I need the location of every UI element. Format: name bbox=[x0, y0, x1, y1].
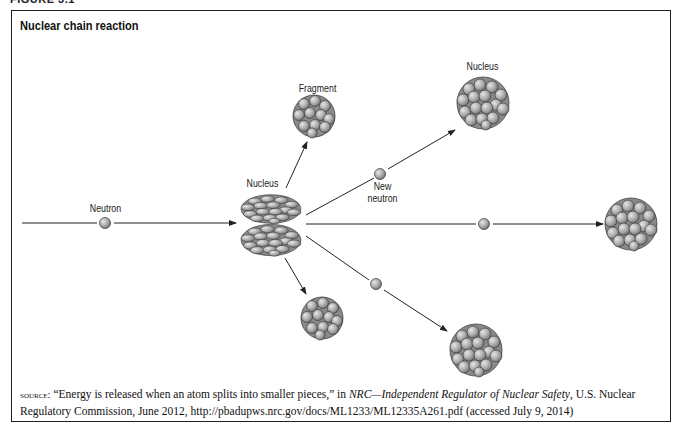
nucleus-top-right-label: Nucleus bbox=[458, 61, 506, 73]
new-neutron-label-line1: New bbox=[358, 181, 406, 193]
bottom-fragment bbox=[301, 297, 343, 340]
new-neutron-middle bbox=[479, 219, 490, 230]
neutron-label: Neutron bbox=[81, 203, 129, 215]
right-nucleus bbox=[605, 198, 657, 251]
arrow-to-bottom-fragment bbox=[285, 258, 306, 294]
lower-path-line bbox=[306, 236, 369, 280]
incoming-neutron bbox=[100, 218, 111, 229]
top-fragment bbox=[293, 95, 335, 138]
new-neutron-label: New neutron bbox=[358, 181, 406, 205]
upper-nucleus bbox=[457, 77, 509, 130]
splitting-nucleus bbox=[241, 195, 301, 257]
new-neutron-label-line2: neutron bbox=[358, 193, 406, 205]
source-publication: NRC—Independent Regulator of Nuclear Saf… bbox=[349, 388, 570, 400]
new-neutron-lower bbox=[371, 279, 382, 290]
source-prefix: source: bbox=[20, 389, 51, 400]
arrow-to-upper-nucleus bbox=[388, 130, 455, 169]
fragment-label: Fragment bbox=[293, 83, 341, 95]
source-citation: source: “Energy is released when an atom… bbox=[20, 386, 660, 419]
lower-nucleus bbox=[450, 324, 502, 377]
nucleus-center-label: Nucleus bbox=[238, 178, 286, 190]
arrow-to-top-fragment bbox=[286, 142, 307, 188]
arrow-to-lower-nucleus bbox=[384, 290, 447, 331]
source-quote: “Energy is released when an atom splits … bbox=[51, 388, 349, 400]
new-neutron-upper bbox=[375, 169, 386, 180]
